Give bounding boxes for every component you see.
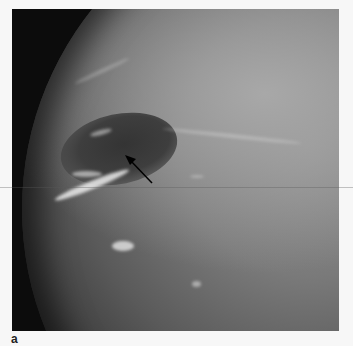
arrow-icon <box>0 0 353 346</box>
panel-label: a <box>11 332 18 346</box>
